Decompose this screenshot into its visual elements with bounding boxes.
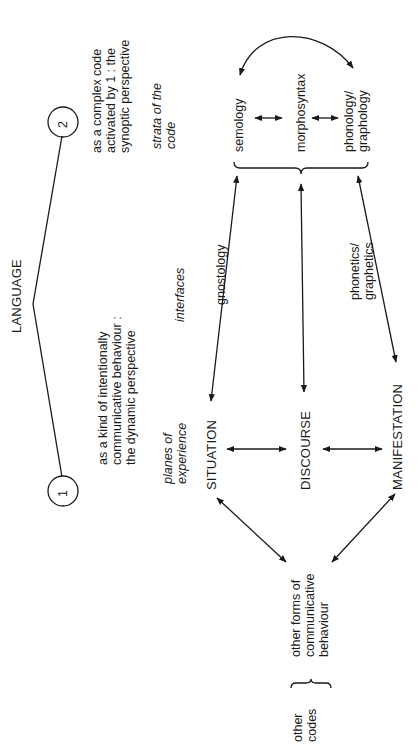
phonetics-label: phonetics/ graphetics [348, 242, 376, 300]
interfaces-label: interfaces [173, 268, 187, 322]
gnostology-label: gnostology [214, 245, 228, 305]
plane-manifestation: MANIFESTATION [391, 384, 405, 490]
stratum-semology: semology [232, 99, 246, 153]
strata-brace [234, 162, 368, 174]
perspective-1-number: 1 [56, 490, 70, 497]
tree-line-to-2 [33, 136, 62, 304]
strata-label: strata of the code [150, 83, 178, 149]
codes-brace [291, 679, 331, 688]
perspective-2-number: 2 [56, 121, 70, 128]
perspective-2-text: as a complex code activated by 1 : the s… [90, 40, 132, 153]
discourse-arrow [301, 184, 304, 392]
stratum-phonology: phonology/ graphology [342, 90, 370, 152]
title-language: LANGUAGE [10, 259, 24, 333]
perspective-1-text: as a kind of intentionally communicative… [96, 316, 138, 465]
other-codes-label: other codes [291, 709, 319, 742]
planes-label: planes of experience [161, 423, 189, 484]
curved-arrow [240, 37, 353, 75]
other-forms-label: other forms of communicative behaviour [289, 574, 331, 657]
language-diagram: LANGUAGE 2 1 as a complex code activated… [0, 0, 419, 751]
stratum-morphosyntax: morphosyntax [294, 73, 308, 152]
plane-situation: SITUATION [205, 420, 219, 490]
plane-discourse: DISCOURSE [299, 411, 313, 490]
tree-line-to-1 [33, 304, 62, 477]
